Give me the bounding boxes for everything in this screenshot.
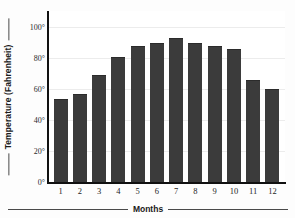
y-axis-tick-label: 60°	[34, 84, 45, 93]
bar-series	[47, 11, 285, 182]
bar	[111, 57, 125, 182]
y-axis-title-text: Temperature (Fahrenheit)	[3, 45, 13, 150]
x-axis-tick-label: 12	[263, 186, 282, 200]
y-axis-title-rule-right	[8, 19, 9, 41]
bar	[227, 49, 241, 182]
bar	[246, 80, 260, 182]
bar	[150, 43, 164, 182]
x-axis-title-rule-left	[8, 209, 128, 210]
bar-cell	[128, 11, 147, 182]
x-axis-tick-label: 7	[167, 186, 186, 200]
y-axis-title-rule-left	[8, 153, 9, 175]
x-axis-tick-label: 10	[224, 186, 243, 200]
x-axis-tick-label: 9	[205, 186, 224, 200]
bar-cell	[186, 11, 205, 182]
x-axis-title-text: Months	[133, 204, 163, 214]
y-axis-line	[47, 11, 49, 184]
bar	[169, 38, 183, 182]
bar	[208, 46, 222, 182]
x-axis-tick-label: 4	[109, 186, 128, 200]
bar	[54, 99, 68, 182]
y-axis-tick-label: 20°	[34, 146, 45, 155]
x-axis-tick-label: 5	[128, 186, 147, 200]
bar-cell	[109, 11, 128, 182]
bar-cell	[70, 11, 89, 182]
bar	[73, 94, 87, 182]
bar-cell	[205, 11, 224, 182]
bar	[188, 43, 202, 182]
x-axis-title-rule-right	[168, 209, 288, 210]
y-axis-tick-labels: 0°20°40°60°80°100°	[18, 0, 47, 218]
bar-cell	[224, 11, 243, 182]
y-axis-tick-label: 40°	[34, 115, 45, 124]
x-axis-tick-label: 1	[51, 186, 70, 200]
x-axis-tick-label: 6	[147, 186, 166, 200]
bar	[131, 46, 145, 182]
bar-cell	[244, 11, 263, 182]
x-axis-tick-labels: 123456789101112	[47, 186, 285, 200]
bar-cell	[147, 11, 166, 182]
x-axis-tick-label: 3	[90, 186, 109, 200]
bar-cell	[51, 11, 70, 182]
bar-cell	[90, 11, 109, 182]
bar	[92, 75, 106, 182]
bar-cell	[263, 11, 282, 182]
bar-cell	[167, 11, 186, 182]
y-axis-tick-label: 80°	[34, 53, 45, 62]
x-axis-title: Months	[8, 202, 288, 216]
plot-area	[47, 11, 285, 182]
x-axis-line	[47, 182, 286, 184]
x-axis-tick-label: 2	[70, 186, 89, 200]
y-axis-tick-label: 0°	[38, 178, 45, 187]
bar	[265, 89, 279, 182]
y-axis-title: Temperature (Fahrenheit)	[0, 6, 17, 188]
x-axis-tick-label: 8	[186, 186, 205, 200]
bar-chart: Temperature (Fahrenheit) 0°20°40°60°80°1…	[0, 0, 295, 218]
y-axis-tick-label: 100°	[30, 22, 45, 31]
x-axis-tick-label: 11	[244, 186, 263, 200]
